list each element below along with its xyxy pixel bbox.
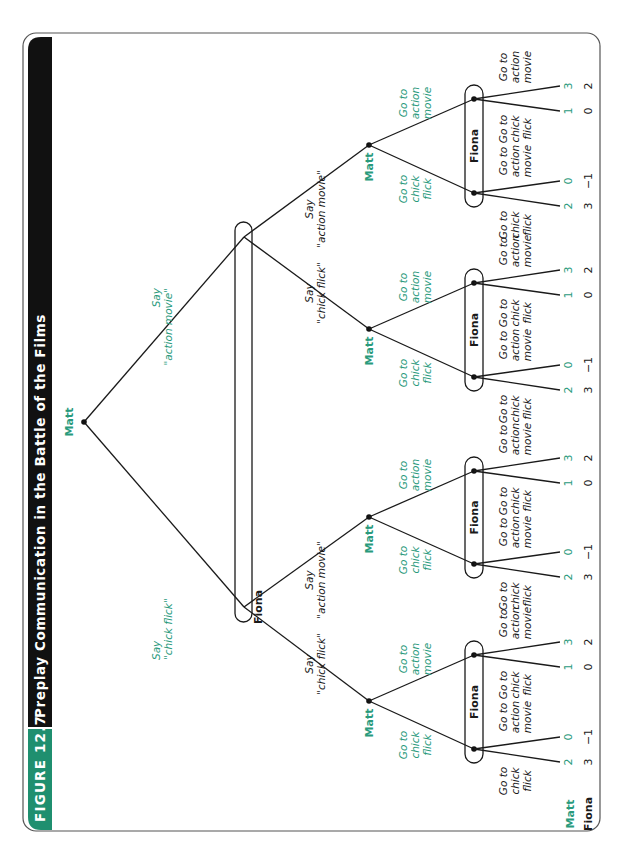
fiona-action-go-chick-flick: Go to: [497, 767, 509, 795]
matt-root-label: Matt: [63, 408, 76, 437]
fiona-action-go-chick-flick: chick: [509, 486, 521, 514]
payoff-fiona: 0: [582, 108, 595, 115]
fiona-action-go-chick-flick: Go to: [497, 211, 509, 239]
fiona-action-say-label: "action movie": [315, 170, 327, 248]
fiona-action-go-chick-flick: flick: [521, 489, 533, 511]
payoff-matt: 0: [562, 734, 575, 741]
matt-action-go-chick-flick: Go to: [397, 175, 409, 203]
fiona-action-go-action-movie: Go to: [497, 147, 509, 175]
payoff-matt: 1: [562, 108, 575, 115]
fiona-action-go-chick-flick: chick: [509, 114, 521, 142]
fiona-action-go-action-movie: action: [509, 516, 521, 548]
payoff-fiona: −1: [582, 357, 595, 373]
fiona-action-say-label: "chick flick": [315, 262, 327, 324]
payoff-matt: 1: [562, 292, 575, 299]
fiona-action-go-action-movie: action: [509, 145, 521, 177]
fiona-action-say-label: "action movie": [315, 541, 327, 619]
fiona-small-infoset-label: Fiona: [468, 685, 481, 719]
fiona-action-go-action-movie: movie: [521, 145, 533, 177]
matt-action-go-action-movie: movie: [421, 87, 433, 119]
fiona-action-go-chick-flick: chick: [509, 298, 521, 326]
matt-action-go-action-movie: action: [409, 87, 421, 119]
root-action-say-chick-flick: Say: [150, 640, 162, 660]
fiona-action-go-action-movie: action: [509, 51, 521, 83]
fiona-action-go-chick-flick: flick: [521, 301, 533, 323]
fiona-action-go-chick-flick: chick: [509, 766, 521, 794]
matt-node-label: Matt: [363, 525, 376, 554]
matt-action-go-action-movie: movie: [421, 459, 433, 491]
matt-action-go-chick-flick: flick: [421, 177, 433, 199]
matt-action-go-chick-flick: Go to: [397, 359, 409, 387]
fiona-action-go-chick-flick: chick: [509, 394, 521, 422]
fiona-action-say-label: Say: [303, 283, 315, 303]
matt-action-go-chick-flick: flick: [421, 548, 433, 570]
matt-action-go-chick-flick: Go to: [397, 731, 409, 759]
matt-action-go-action-movie: Go to: [397, 461, 409, 489]
matt-action-go-chick-flick: chick: [409, 174, 421, 202]
payoff-fiona: 3: [582, 574, 595, 581]
payoff-fiona: −1: [582, 544, 595, 560]
root-action-say-action-movie: "action movie": [162, 288, 174, 366]
payoff-fiona: 2: [582, 639, 595, 646]
figure-title: Preplay Communication in the Battle of t…: [32, 314, 48, 718]
fiona-action-go-action-movie: movie: [521, 235, 533, 267]
payoff-matt: 0: [562, 549, 575, 556]
matt-action-go-chick-flick: chick: [409, 730, 421, 758]
matt-action-go-action-movie: Go to: [397, 645, 409, 673]
fiona-action-go-chick-flick: flick: [521, 673, 533, 695]
payoff-fiona: 0: [582, 480, 595, 487]
fiona-action-go-chick-flick: chick: [509, 210, 521, 238]
fiona-action-go-chick-flick: chick: [509, 581, 521, 609]
payoff-matt: 0: [562, 362, 575, 369]
matt-action-go-chick-flick: chick: [409, 358, 421, 386]
matt-action-go-action-movie: Go to: [397, 273, 409, 301]
payoff-matt: 1: [562, 480, 575, 487]
fiona-action-go-action-movie: action: [509, 607, 521, 639]
fiona-action-go-chick-flick: Go to: [497, 582, 509, 610]
root-action-say-chick-flick: "chick flick": [162, 598, 174, 660]
fiona-action-go-chick-flick: Go to: [497, 671, 509, 699]
fiona-action-go-action-movie: Go to: [497, 425, 509, 453]
payoff-fiona: −1: [582, 729, 595, 745]
fiona-action-go-action-movie: movie: [521, 329, 533, 361]
fiona-action-go-chick-flick: Go to: [497, 299, 509, 327]
fiona-action-go-action-movie: movie: [521, 516, 533, 548]
payoff-matt: 2: [562, 203, 575, 210]
matt-node-label: Matt: [363, 153, 376, 182]
fiona-action-go-action-movie: action: [509, 701, 521, 733]
fiona-infoset-label: Fiona: [252, 590, 265, 624]
fiona-action-say-label: Say: [303, 654, 315, 674]
fiona-action-go-action-movie: action: [509, 235, 521, 267]
fiona-small-infoset-label: Fiona: [468, 129, 481, 163]
payoff-matt: 3: [562, 639, 575, 646]
matt-action-go-action-movie: Go to: [397, 89, 409, 117]
fiona-action-go-chick-flick: Go to: [497, 395, 509, 423]
matt-action-go-action-movie: action: [409, 459, 421, 491]
fiona-action-go-chick-flick: flick: [521, 397, 533, 419]
fiona-action-go-chick-flick: flick: [521, 769, 533, 791]
matt-root-node: [81, 419, 87, 425]
payoff-fiona: 0: [582, 292, 595, 299]
fiona-action-go-action-movie: Go to: [497, 609, 509, 637]
payoff-matt: 2: [562, 574, 575, 581]
fiona-action-go-action-movie: movie: [521, 701, 533, 733]
fiona-action-go-chick-flick: Go to: [497, 115, 509, 143]
game-tree-figure: FIGURE 12.7 Preplay Communication in the…: [0, 0, 627, 849]
payoff-matt: 2: [562, 759, 575, 766]
matt-action-go-chick-flick: chick: [409, 545, 421, 573]
fiona-action-go-chick-flick: flick: [521, 584, 533, 606]
fiona-small-infoset-label: Fiona: [468, 313, 481, 347]
matt-action-go-chick-flick: flick: [421, 733, 433, 755]
payoff-fiona: 3: [582, 387, 595, 394]
fiona-action-go-action-movie: action: [509, 423, 521, 455]
payoff-fiona: 3: [582, 203, 595, 210]
fiona-action-go-chick-flick: flick: [521, 117, 533, 139]
payoff-matt: 3: [562, 267, 575, 274]
fiona-action-say-label: Say: [303, 199, 315, 219]
fiona-action-go-chick-flick: chick: [509, 670, 521, 698]
payoff-fiona: 2: [582, 267, 595, 274]
payoff-matt: 2: [562, 387, 575, 394]
fiona-action-go-action-movie: Go to: [497, 703, 509, 731]
fiona-action-go-chick-flick: Go to: [497, 487, 509, 515]
matt-action-go-action-movie: action: [409, 271, 421, 303]
